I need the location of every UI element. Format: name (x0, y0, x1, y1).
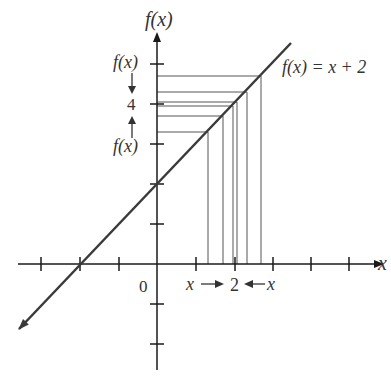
origin-label: 0 (139, 277, 148, 296)
function-label: f(x) = x + 2 (282, 57, 366, 78)
left-x-label: x (185, 274, 194, 294)
limit-point-label: 2 (230, 275, 239, 295)
y-axis (150, 34, 164, 370)
horizontal-guide-lines (157, 76, 261, 132)
up-arrow-icon (128, 116, 136, 138)
right-arrow-icon (201, 280, 224, 288)
right-x-label: x (266, 274, 275, 294)
y-axis-label: f(x) (145, 8, 173, 31)
lower-fx-label: f(x) (113, 136, 138, 157)
down-arrow-icon (128, 73, 136, 94)
left-arrow-icon (244, 280, 265, 288)
limit-diagram: f(x) x 0 f(x) = x + 2 f(x) 4 f(x) x 2 x (0, 0, 391, 382)
x-axis (18, 257, 382, 271)
limit-value-label: 4 (127, 95, 136, 114)
x-axis-label: x (377, 252, 387, 274)
upper-fx-label: f(x) (113, 52, 138, 73)
